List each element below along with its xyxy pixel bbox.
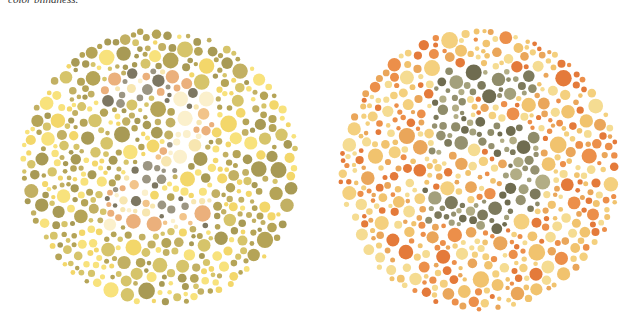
ishihara-plate-left: 2 xyxy=(18,22,302,312)
caption-text: color blindness. xyxy=(8,0,78,5)
ishihara-plate-right: 5 xyxy=(335,20,623,320)
dot-pattern xyxy=(18,22,302,312)
dot-pattern xyxy=(335,20,623,320)
